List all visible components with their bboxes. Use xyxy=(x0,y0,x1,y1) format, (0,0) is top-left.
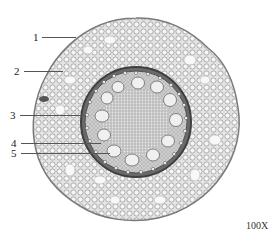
leader-line-3 xyxy=(20,115,86,116)
label-1: 1 xyxy=(33,32,39,43)
leader-line-1 xyxy=(42,37,76,38)
magnification-label: 100X xyxy=(246,220,268,231)
label-2: 2 xyxy=(14,66,20,77)
root-cross-section-figure: 1 2 3 4 5 100X xyxy=(0,0,280,240)
micrograph xyxy=(0,0,280,240)
epidermis-fragment xyxy=(39,96,49,102)
label-3: 3 xyxy=(10,110,16,121)
label-5: 5 xyxy=(11,148,17,159)
leader-line-4 xyxy=(21,143,101,144)
leader-line-2 xyxy=(24,71,63,72)
leader-line-5 xyxy=(21,153,110,154)
